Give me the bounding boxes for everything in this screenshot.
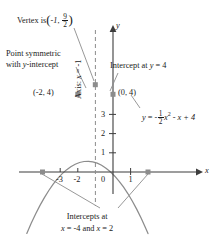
- leader-root-left: [42, 174, 100, 208]
- ytick-label-1: 1: [101, 148, 105, 157]
- equation-label: y = -12x2 - x + 4: [142, 110, 195, 126]
- vertex-comma: ,: [58, 16, 62, 25]
- axis-of-symmetry-variable: x: [74, 75, 83, 79]
- axis-of-symmetry-label: Axis: x = -1: [74, 60, 85, 100]
- point-marker-0-4: [111, 92, 116, 97]
- axis-of-symmetry-value: = -1: [74, 60, 83, 74]
- vertex-x-value: -1: [51, 16, 58, 25]
- xtick-label-minus2: -2: [74, 175, 81, 184]
- vertex-paren-close: ): [68, 12, 72, 27]
- vertex-paren-open: (: [46, 12, 50, 27]
- y-intercept-annotation-prefix: Intercept at: [110, 61, 148, 70]
- x-intercepts-var-1: x: [61, 224, 65, 233]
- y-intercept-annotation-variable: y: [150, 61, 154, 70]
- x-intercepts-line2: x = -4 and x = 2: [61, 223, 113, 235]
- point-label-minus2-4: (-2, 4): [33, 88, 54, 99]
- point-marker-root-left: [40, 170, 45, 175]
- x-axis-arrow: [196, 169, 203, 176]
- equation-fraction: 12: [158, 110, 164, 126]
- ytick-label-2: 2: [101, 129, 105, 138]
- x-intercepts-annotation: Intercepts at x = -4 and x = 2: [61, 211, 113, 234]
- symmetric-point-line2: with y-intercept: [6, 60, 82, 71]
- equation-fraction-denominator: 2: [158, 117, 164, 125]
- x-axis-label: x: [205, 166, 209, 175]
- equation-rest: - x + 4: [173, 113, 195, 122]
- vertex-annotation-prefix: Vertex is: [17, 16, 46, 25]
- symmetric-point-annotation: Point symmetric with y-intercept: [6, 49, 82, 70]
- y-intercept-annotation: Intercept at y = 4: [110, 61, 166, 72]
- parabola-figure: -3 -2 0 1 1 2 3 x y Vertex is(-1, 92) Po…: [0, 0, 222, 243]
- point-marker-vertex: [93, 82, 98, 87]
- vertex-annotation: Vertex is(-1, 92): [17, 13, 73, 29]
- equation-lhs: y: [142, 113, 146, 122]
- equation-eq: = -: [148, 113, 158, 122]
- equation-exponent: 2: [168, 111, 171, 117]
- y-axis-label: y: [116, 21, 120, 30]
- symmetric-point-line1: Point symmetric: [6, 49, 82, 60]
- ytick-label-3: 3: [101, 110, 105, 119]
- x-intercepts-line1: Intercepts at: [61, 211, 113, 223]
- axis-of-symmetry-prefix: Axis:: [74, 81, 83, 99]
- x-intercepts-var-2: x: [97, 224, 101, 233]
- xtick-label-1: 1: [129, 175, 133, 184]
- leader-intercept-y: [110, 73, 118, 91]
- xtick-label-minus3: -3: [56, 175, 63, 184]
- symmetric-point-line2-prefix: with: [6, 60, 21, 69]
- point-label-0-4: (0, 4): [118, 88, 136, 99]
- symmetric-point-line2-suffix: -intercept: [27, 60, 59, 69]
- point-marker-root-right: [146, 170, 151, 175]
- x-intercepts-value-1: = -4 and: [67, 224, 95, 233]
- y-intercept-annotation-value: = 4: [155, 61, 166, 70]
- xtick-label-0: 0: [101, 175, 105, 184]
- x-intercepts-value-2: = 2: [102, 224, 113, 233]
- equation-fraction-numerator: 1: [158, 110, 164, 117]
